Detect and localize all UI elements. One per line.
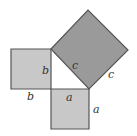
label-a-outer: a bbox=[93, 103, 100, 116]
label-a-inner: a bbox=[66, 91, 73, 104]
label-c-inner: c bbox=[72, 59, 78, 72]
label-b-inner: b bbox=[42, 64, 49, 77]
pythagorean-diagram: b b c c a a bbox=[0, 0, 137, 136]
label-b-outer: b bbox=[27, 90, 34, 103]
label-c-outer: c bbox=[108, 68, 114, 81]
square-c bbox=[51, 10, 128, 89]
